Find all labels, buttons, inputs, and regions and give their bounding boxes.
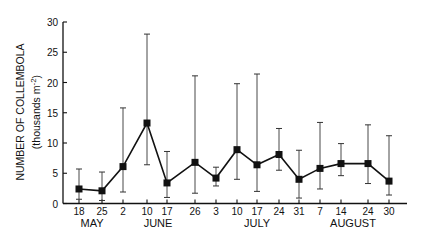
y-tick-label: 20	[47, 78, 59, 89]
x-tick-label: 26	[189, 206, 201, 217]
data-point-marker	[317, 165, 324, 172]
x-tick-label: 18	[73, 206, 85, 217]
data-point-marker	[338, 160, 345, 167]
x-tick-label: 7	[317, 206, 323, 217]
error-bars	[76, 34, 392, 200]
y-tick-label: 10	[47, 138, 59, 149]
data-point-marker	[365, 160, 372, 167]
x-tick-label: 14	[335, 206, 347, 217]
data-point-marker	[386, 178, 393, 185]
data-point-marker	[276, 151, 283, 158]
collembola-chart: NUMBER OF COLLEMBOLA (thousands m-2) 051…	[0, 0, 423, 241]
data-point-marker	[192, 159, 199, 166]
x-tick-label: 17	[251, 206, 263, 217]
data-point-marker	[254, 161, 261, 168]
data-point-marker	[296, 176, 303, 183]
y-tick-label: 30	[47, 17, 59, 28]
y-tick-label: 5	[52, 168, 58, 179]
x-tick-label: 24	[362, 206, 374, 217]
month-label: AUGUST	[330, 217, 376, 229]
y-axis-units: (thousands m-2)	[29, 75, 42, 149]
x-tick-label: 17	[161, 206, 173, 217]
y-ticks: 051015202530	[47, 17, 67, 210]
series-line	[79, 123, 389, 191]
data-point-marker	[213, 175, 220, 182]
y-tick-label: 25	[47, 47, 59, 58]
x-tick-label: 30	[383, 206, 395, 217]
y-axis-label: NUMBER OF COLLEMBOLA	[14, 43, 26, 180]
month-label: JUNE	[144, 217, 173, 229]
x-tick-label: 2	[120, 206, 126, 217]
data-point-marker	[99, 187, 106, 194]
data-line	[79, 123, 389, 191]
data-point-marker	[120, 163, 127, 170]
y-axis-title: NUMBER OF COLLEMBOLA (thousands m-2)	[14, 43, 42, 180]
month-label: JULY	[244, 217, 271, 229]
x-tick-label: 10	[141, 206, 153, 217]
y-tick-label: 15	[47, 108, 59, 119]
x-tick-label: 31	[293, 206, 305, 217]
x-tick-label: 10	[231, 206, 243, 217]
data-point-marker	[234, 146, 241, 153]
y-tick-label: 0	[52, 199, 58, 210]
data-point-marker	[144, 120, 151, 127]
x-tick-label: 25	[96, 206, 108, 217]
month-label: MAY	[80, 217, 104, 229]
data-point-marker	[164, 179, 171, 186]
x-tick-label: 24	[273, 206, 285, 217]
data-point-marker	[76, 185, 83, 192]
x-tick-label: 3	[213, 206, 219, 217]
x-ticks: 182521017263101724317142430	[73, 200, 395, 218]
month-labels: MAYJUNEJULYAUGUST	[80, 217, 376, 229]
